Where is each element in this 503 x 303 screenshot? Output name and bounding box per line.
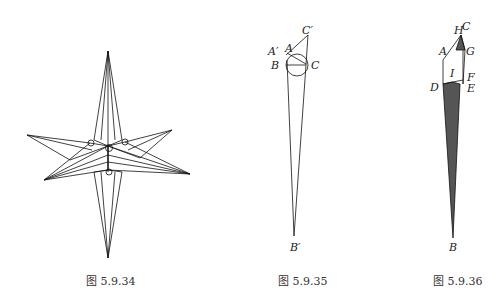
label-A-prime: A′ [267,45,279,58]
label-C: C [462,20,471,33]
label-I: I [449,67,455,80]
label-E: E [466,82,475,95]
triangle-figure [286,35,308,236]
label-C: C [311,59,320,72]
figures-canvas: 图 5.9.34 C′ A′ A B C B′ 图 5.9.35 H C A G… [0,0,503,303]
label-D: D [429,81,439,94]
label-G: G [466,45,475,58]
caption-fig-35: 图 5.9.35 [278,275,327,288]
label-B-prime: B′ [289,241,301,254]
label-A: A [438,45,447,58]
label-C-prime: C′ [302,24,313,37]
label-A: A [284,42,293,55]
label-B: B [270,59,279,72]
caption-fig-36: 图 5.9.36 [433,275,482,288]
shaded-figure [443,35,465,238]
label-B: B [448,241,457,254]
caption-fig-34: 图 5.9.34 [86,275,135,288]
star-figure [27,51,190,258]
